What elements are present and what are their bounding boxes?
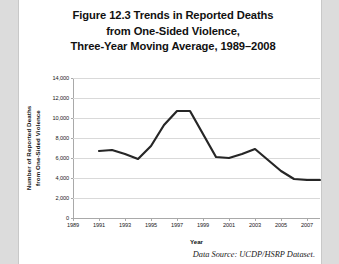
x-axis-tick (229, 218, 230, 221)
y-axis-title-line-1: Number of Reported Deaths (25, 106, 34, 191)
x-axis-tick (177, 218, 178, 221)
figure-title-line-3: Three-Year Moving Average, 1989–2008 (30, 39, 316, 55)
x-axis-tick-label: 2007 (301, 222, 313, 228)
x-axis-tick-label: 1989 (67, 222, 79, 228)
x-axis-tick-label: 1999 (197, 222, 209, 228)
figure-title-line-1: Figure 12.3 Trends in Reported Deaths (30, 8, 316, 24)
y-axis-tick-label: 8,000 (56, 135, 70, 141)
x-axis-tick-label: 1995 (145, 222, 157, 228)
x-axis-tick (203, 218, 204, 221)
x-axis-tick-label: 2005 (275, 222, 287, 228)
y-axis-tick-label: 10,000 (52, 115, 69, 121)
y-axis-tick-label: 4,000 (56, 175, 70, 181)
gridline (73, 218, 320, 219)
y-axis-title: Number of Reported Deaths from One-Sided… (23, 78, 45, 218)
data-series-line (73, 78, 320, 218)
x-axis-tick-label: 1993 (119, 222, 131, 228)
y-axis-tick-label: 6,000 (56, 155, 70, 161)
figure-title-line-2: from One-Sided Violence, (30, 24, 316, 40)
x-axis-tick (255, 218, 256, 221)
plot-area: 02,0004,0006,0008,00010,00012,00014,000 … (73, 78, 320, 218)
figure-container: Figure 12.3 Trends in Reported Deaths fr… (0, 0, 339, 264)
x-axis-tick-label: 2003 (249, 222, 261, 228)
x-axis-tick-label: 2001 (223, 222, 235, 228)
y-axis-tick-label: 2,000 (56, 195, 70, 201)
y-axis-tick-label: 14,000 (52, 75, 69, 81)
x-axis-tick (281, 218, 282, 221)
y-axis-title-line-2: from One-Sided Violence (34, 106, 43, 191)
x-axis-tick (73, 218, 74, 221)
x-axis-tick (99, 218, 100, 221)
x-axis-tick (151, 218, 152, 221)
x-axis-title: Year (73, 238, 320, 245)
figure-title: Figure 12.3 Trends in Reported Deaths fr… (30, 8, 316, 55)
source-note: Data Source: UCDP/HSRP Dataset. (193, 250, 315, 259)
y-axis-tick-label: 0 (66, 215, 69, 221)
x-axis-tick-label: 1997 (171, 222, 183, 228)
y-axis-tick-label: 12,000 (52, 95, 69, 101)
x-axis-tick (125, 218, 126, 221)
x-axis-tick (307, 218, 308, 221)
x-axis-tick-label: 1991 (93, 222, 105, 228)
